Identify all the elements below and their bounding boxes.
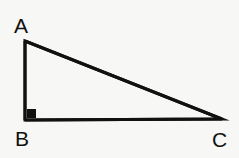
right-triangle-diagram: A B C (0, 0, 239, 158)
triangle-side-bc (25, 119, 222, 120)
right-angle-marker-icon (27, 109, 36, 118)
triangle-figure-canvas: A B C (0, 0, 239, 158)
vertex-label-a: A (14, 14, 28, 37)
vertex-label-c: C (212, 128, 227, 151)
vertex-label-b: B (15, 127, 29, 150)
